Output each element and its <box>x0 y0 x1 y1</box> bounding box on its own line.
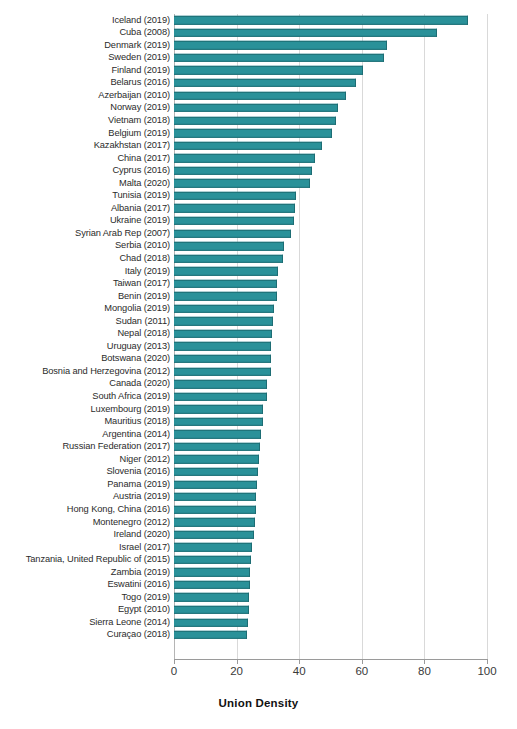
category-label: Azerbaijan (2010) <box>0 91 174 100</box>
bar-row: Mauritius (2018) <box>0 416 517 429</box>
bar-row: Mongolia (2019) <box>0 303 517 316</box>
x-axis-line <box>174 659 487 660</box>
category-label: Ireland (2020) <box>0 530 174 539</box>
category-label: Israel (2017) <box>0 543 174 552</box>
bar <box>174 229 291 237</box>
bar-cell <box>174 139 517 152</box>
bar-cell <box>174 340 517 353</box>
bar-row: South Africa (2019) <box>0 390 517 403</box>
bar-cell <box>174 579 517 592</box>
bar-row: Curaçao (2018) <box>0 629 517 642</box>
bar-cell <box>174 27 517 40</box>
bar-row: Serbia (2010) <box>0 240 517 253</box>
bar-row: Botswana (2020) <box>0 353 517 366</box>
bar-row: Norway (2019) <box>0 102 517 115</box>
bar-cell <box>174 64 517 77</box>
bar-cell <box>174 303 517 316</box>
category-label: Ukraine (2019) <box>0 216 174 225</box>
category-label: Slovenia (2016) <box>0 467 174 476</box>
category-label: China (2017) <box>0 154 174 163</box>
category-label: Cyprus (2016) <box>0 166 174 175</box>
bar-row: Tanzania, United Republic of (2015) <box>0 554 517 567</box>
bar-cell <box>174 152 517 165</box>
bar-row: Egypt (2010) <box>0 604 517 617</box>
bar <box>174 242 284 250</box>
bar-cell <box>174 89 517 102</box>
bar <box>174 142 322 150</box>
bar <box>174 543 252 551</box>
bar-rows: Iceland (2019)Cuba (2008)Denmark (2019)S… <box>0 14 517 641</box>
category-label: Denmark (2019) <box>0 41 174 50</box>
bar-row: Benin (2019) <box>0 290 517 303</box>
bar-row: Kazakhstan (2017) <box>0 139 517 152</box>
bar <box>174 418 263 426</box>
bar <box>174 505 256 513</box>
bar <box>174 380 267 388</box>
bar <box>174 455 259 463</box>
bar <box>174 568 250 576</box>
bar <box>174 405 263 413</box>
bar-row: Hong Kong, China (2016) <box>0 503 517 516</box>
bar <box>174 16 468 24</box>
bar-cell <box>174 39 517 52</box>
bar-cell <box>174 365 517 378</box>
bar-cell <box>174 165 517 178</box>
x-tick-label: 60 <box>355 666 368 678</box>
bar <box>174 443 260 451</box>
bar-cell <box>174 528 517 541</box>
bar <box>174 154 315 162</box>
bar-cell <box>174 190 517 203</box>
category-label: Togo (2019) <box>0 593 174 602</box>
bar-cell <box>174 227 517 240</box>
bar <box>174 116 336 124</box>
bar-row: Uruguay (2013) <box>0 340 517 353</box>
bar-row: Cyprus (2016) <box>0 165 517 178</box>
bar <box>174 342 271 350</box>
bar <box>174 631 247 639</box>
bar <box>174 29 437 37</box>
bar-row: Austria (2019) <box>0 491 517 504</box>
category-label: Chad (2018) <box>0 254 174 263</box>
x-tick-label: 20 <box>230 666 243 678</box>
category-label: Niger (2012) <box>0 455 174 464</box>
category-label: Norway (2019) <box>0 103 174 112</box>
bar-cell <box>174 127 517 140</box>
bar <box>174 129 332 137</box>
bar <box>174 305 274 313</box>
bar-cell <box>174 102 517 115</box>
bar <box>174 91 346 99</box>
bar-row: Belgium (2019) <box>0 127 517 140</box>
bar-cell <box>174 466 517 479</box>
bar <box>174 606 249 614</box>
bar <box>174 66 363 74</box>
category-label: Benin (2019) <box>0 292 174 301</box>
bar-row: Israel (2017) <box>0 541 517 554</box>
category-label: Belarus (2016) <box>0 78 174 87</box>
category-label: Botswana (2020) <box>0 354 174 363</box>
bar-cell <box>174 240 517 253</box>
bar <box>174 41 387 49</box>
bar <box>174 468 258 476</box>
bar-row: Zambia (2019) <box>0 566 517 579</box>
bar-row: Syrian Arab Rep (2007) <box>0 227 517 240</box>
x-tick <box>299 659 300 664</box>
bar-cell <box>174 202 517 215</box>
bar-cell <box>174 328 517 341</box>
bar-row: Sierra Leone (2014) <box>0 616 517 629</box>
bar-row: Argentina (2014) <box>0 428 517 441</box>
bar-row: Malta (2020) <box>0 177 517 190</box>
bar <box>174 280 277 288</box>
bar <box>174 530 254 538</box>
bar-cell <box>174 114 517 127</box>
category-label: Canada (2020) <box>0 379 174 388</box>
category-label: Argentina (2014) <box>0 430 174 439</box>
category-label: Panama (2019) <box>0 480 174 489</box>
x-tick-label: 80 <box>418 666 431 678</box>
category-label: Sweden (2019) <box>0 53 174 62</box>
bar-row: Azerbaijan (2010) <box>0 89 517 102</box>
x-tick <box>237 659 238 664</box>
bar <box>174 204 295 212</box>
bar <box>174 167 312 175</box>
bar-row: Eswatini (2016) <box>0 579 517 592</box>
bar <box>174 430 261 438</box>
